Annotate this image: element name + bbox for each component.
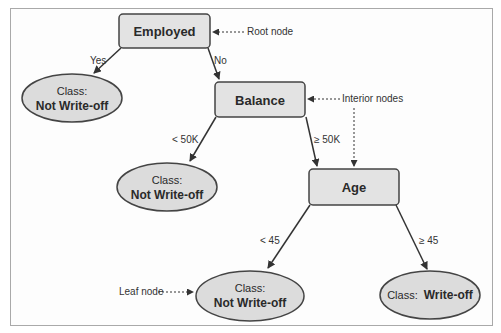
callout-root-label: Root node	[247, 26, 294, 37]
node-age-label: Age	[342, 180, 367, 195]
leaf2-prefix: Class:	[152, 174, 183, 186]
node-leaf-not-write-off-1: Class: Not Write-off	[22, 74, 122, 122]
leaf4-value: Write-off	[424, 288, 474, 302]
callout-leaf: Leaf node	[119, 286, 193, 297]
node-leaf-not-write-off-3: Class: Not Write-off	[196, 271, 304, 321]
node-employed-label: Employed	[133, 24, 195, 39]
node-leaf-write-off: Class: Write-off	[380, 271, 480, 319]
callout-leaf-label: Leaf node	[119, 286, 164, 297]
callout-interior-label: Interior nodes	[342, 93, 403, 104]
svg-text:Class: Write-off: Class: Write-off	[387, 288, 474, 302]
node-balance-label: Balance	[235, 93, 285, 108]
node-leaf-not-write-off-2: Class: Not Write-off	[117, 163, 217, 211]
edge-label-no: No	[214, 55, 227, 66]
decision-tree-diagram: Yes No < 50K ≥ 50K < 45 ≥ 45 Employed Ba…	[0, 0, 501, 333]
leaf1-value: Not Write-off	[36, 99, 109, 113]
edge-label-balance-lt: < 50K	[172, 134, 199, 145]
node-employed: Employed	[119, 14, 210, 48]
leaf4-prefix: Class:	[387, 289, 418, 301]
edge-label-age-lt: < 45	[260, 235, 280, 246]
leaf3-value: Not Write-off	[214, 296, 287, 310]
node-balance: Balance	[215, 82, 305, 117]
leaf2-value: Not Write-off	[131, 188, 204, 202]
callout-root: Root node	[213, 26, 294, 37]
edge-label-yes: Yes	[90, 55, 106, 66]
edge-label-balance-ge: ≥ 50K	[314, 134, 340, 145]
edge-label-age-ge: ≥ 45	[419, 235, 439, 246]
leaf3-prefix: Class:	[235, 282, 266, 294]
leaf1-prefix: Class:	[57, 85, 88, 97]
callout-interior: Interior nodes	[308, 93, 403, 166]
node-age: Age	[309, 169, 399, 205]
